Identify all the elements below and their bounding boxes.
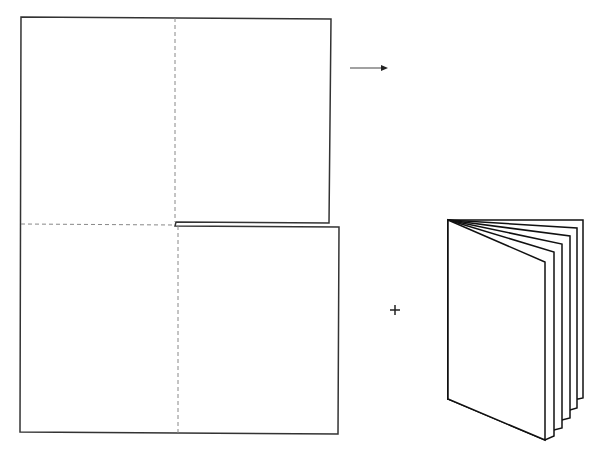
right-arrow-icon — [350, 65, 388, 71]
plus-icon — [390, 305, 400, 315]
booklet — [448, 220, 583, 440]
folding-diagram — [0, 0, 613, 468]
sheet-outline — [20, 17, 339, 434]
flat-sheet — [20, 17, 339, 434]
fold-line-horizontal-left — [21, 224, 174, 225]
